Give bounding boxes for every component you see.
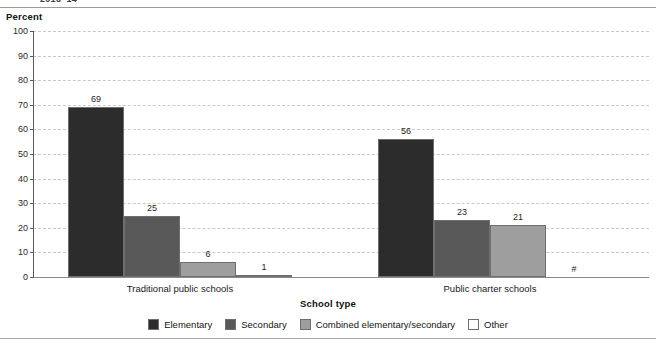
legend-item-label: Other [484,319,508,330]
legend-swatch-icon [300,319,311,330]
bar-secondary [434,220,490,277]
legend-item-label: Combined elementary/secondary [316,319,455,330]
bar-value-label: 6 [180,249,236,259]
y-axis-tick-mark [30,80,34,81]
bar-value-label: 23 [434,207,490,217]
chart-title-partial: 2013–14 [40,0,77,4]
bar-secondary [124,216,180,278]
bar-combined-elementary-secondary [180,262,236,277]
y-axis-tick-label: 10 [2,248,28,257]
bar-value-label: 21 [490,212,546,222]
bar-value-label: 1 [236,262,292,272]
bottom-divider-rule [0,338,656,339]
y-axis-tick-mark [30,228,34,229]
legend-swatch-icon [225,319,236,330]
y-axis-tick-mark [30,105,34,106]
gridline [33,105,649,106]
gridline [33,154,649,155]
y-axis-tick-label: 60 [2,125,28,134]
bar-elementary [68,107,124,277]
top-divider-rule [0,7,656,8]
legend-item-label: Elementary [164,319,212,330]
y-axis-tick-mark [30,56,34,57]
y-axis-tick-mark [30,154,34,155]
bar-value-label: 69 [68,94,124,104]
legend-swatch-icon [148,319,159,330]
y-axis-tick-label: 50 [2,150,28,159]
gridline [33,179,649,180]
y-axis-tick-mark [30,252,34,253]
x-axis-line [33,277,649,278]
legend-item: Secondary [225,319,286,330]
y-axis-tick-label: 90 [2,52,28,61]
y-axis-tick-label: 80 [2,76,28,85]
y-axis-tick-label: 70 [2,101,28,110]
y-axis-tick-mark [30,203,34,204]
x-axis-title: School type [0,298,656,309]
gridline [33,129,649,130]
legend-item: Combined elementary/secondary [300,319,455,330]
y-axis-tick-mark [30,31,34,32]
plot-area: 0102030405060708090100 692561562321# Tra… [33,31,649,277]
y-axis-tick-label: 100 [2,27,28,36]
y-axis-tick-label: 0 [2,273,28,282]
y-axis-tick-label: 30 [2,199,28,208]
gridline [33,56,649,57]
gridline [33,31,649,32]
bar-value-label: # [546,264,602,274]
x-axis-category-label: Public charter schools [338,283,642,294]
y-axis-tick-label: 20 [2,224,28,233]
y-axis-tick-mark [30,179,34,180]
bar-elementary [378,139,434,277]
legend-swatch-icon [468,319,479,330]
y-axis-tick-mark [30,129,34,130]
bar-value-label: 25 [124,203,180,213]
bar-combined-elementary-secondary [490,225,546,277]
bar-value-label: 56 [378,126,434,136]
gridline [33,80,649,81]
y-axis-unit-label: Percent [6,11,42,22]
bar-other [236,275,292,277]
x-axis-category-label: Traditional public schools [28,283,332,294]
legend-item-label: Secondary [241,319,286,330]
legend-item: Elementary [148,319,212,330]
legend-item: Other [468,319,508,330]
chart-legend: ElementarySecondaryCombined elementary/s… [0,319,656,330]
y-axis-tick-label: 40 [2,175,28,184]
y-axis-tick-mark [30,277,34,278]
